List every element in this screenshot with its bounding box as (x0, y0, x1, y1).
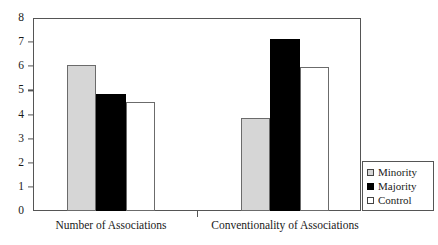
y-axis-tick-mark (28, 114, 33, 115)
legend-swatch-control-icon (367, 197, 374, 204)
y-axis-tick-label: 7 (18, 36, 24, 48)
y-axis-tick-label: 3 (18, 133, 24, 145)
y-axis-tick-label: 4 (18, 109, 24, 121)
legend-item-control: Control (367, 193, 430, 207)
y-axis-tick-mark (28, 186, 33, 187)
legend-label-control: Control (378, 195, 412, 206)
y-axis: 876543210 (0, 0, 33, 245)
chart-legend: Minority Majority Control (362, 161, 434, 211)
legend-label-majority: Majority (378, 181, 417, 192)
y-axis-tick-label: 2 (18, 157, 24, 169)
legend-item-majority: Majority (367, 179, 430, 193)
y-axis-tick-label: 8 (18, 12, 24, 24)
y-axis-tick-label: 5 (18, 85, 24, 97)
y-axis-tick-label: 0 (18, 205, 24, 217)
x-axis-group-separator-tick (197, 211, 198, 217)
legend-label-minority: Minority (378, 167, 417, 178)
y-axis-tick-mark (28, 138, 33, 139)
bar-chart: 876543210 Minority Majority Control Numb… (0, 0, 438, 245)
legend-swatch-minority-icon (367, 169, 374, 176)
x-axis-category-label-0: Number of Associations (55, 220, 166, 232)
legend-swatch-majority-icon (367, 183, 374, 190)
y-axis-tick-mark (28, 162, 33, 163)
y-axis-tick-mark (28, 42, 33, 43)
y-axis-tick-label: 6 (18, 61, 24, 73)
plot-area (33, 18, 361, 211)
x-axis-category-label-1: Conventionality of Associations (211, 220, 359, 232)
y-axis-tick-mark (28, 90, 33, 91)
y-axis-tick-mark (28, 66, 33, 67)
legend-item-minority: Minority (367, 165, 430, 179)
y-axis-tick-label: 1 (18, 181, 24, 193)
